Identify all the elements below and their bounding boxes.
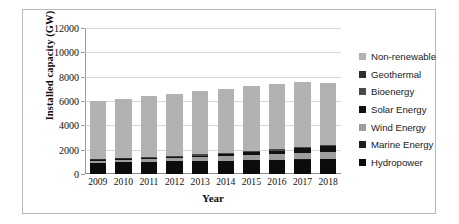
- stacked-bar[interactable]: [243, 86, 259, 174]
- bar-segment-hydropower: [141, 162, 157, 174]
- bar-segment-hydropower: [320, 159, 336, 174]
- plot-area: 020004000600080001000012000: [85, 28, 341, 174]
- legend-item[interactable]: Marine Energy: [359, 136, 459, 154]
- legend-label: Wind Energy: [371, 122, 426, 133]
- bar-segment-non-renewable: [269, 84, 285, 149]
- bar-slot: [187, 28, 213, 174]
- y-tick-label: 6000: [43, 96, 79, 107]
- stacked-bar[interactable]: [269, 84, 285, 174]
- bar-slot: [136, 28, 162, 174]
- legend-label: Geothermal: [371, 69, 421, 80]
- legend-item[interactable]: Geothermal: [359, 66, 459, 84]
- bar-segment-hydropower: [218, 161, 234, 174]
- x-tick-label: 2017: [290, 176, 316, 187]
- bar-series-group: [85, 28, 341, 174]
- bar-segment-non-renewable: [294, 82, 310, 147]
- bar-segment-non-renewable: [192, 91, 208, 154]
- x-tick-label: 2016: [264, 176, 290, 187]
- stacked-bar[interactable]: [192, 91, 208, 174]
- legend-swatch-icon: [359, 53, 366, 60]
- legend-item[interactable]: Bioenergy: [359, 83, 459, 101]
- x-axis-title: Year: [85, 192, 341, 204]
- bar-segment-non-renewable: [166, 94, 182, 156]
- chart-legend: Non-renewableGeothermalBioenergySolar En…: [359, 48, 459, 171]
- legend-swatch-icon: [359, 88, 366, 95]
- legend-swatch-icon: [359, 71, 366, 78]
- x-tick-label: 2018: [315, 176, 341, 187]
- y-tick-label: 4000: [43, 120, 79, 131]
- bar-segment-non-renewable: [243, 86, 259, 150]
- bar-segment-non-renewable: [90, 101, 106, 159]
- bar-segment-hydropower: [166, 161, 182, 174]
- legend-label: Non-renewable: [371, 51, 436, 62]
- bar-slot: [315, 28, 341, 174]
- stacked-bar[interactable]: [218, 89, 234, 174]
- bar-slot: [111, 28, 137, 174]
- legend-swatch-icon: [359, 106, 366, 113]
- y-axis-title: Installed capacity (GW): [44, 0, 55, 136]
- stacked-bar[interactable]: [320, 83, 336, 174]
- x-tick-label: 2010: [111, 176, 137, 187]
- bar-segment-hydropower: [90, 163, 106, 174]
- legend-label: Bioenergy: [371, 86, 414, 97]
- legend-item[interactable]: Non-renewable: [359, 48, 459, 66]
- bar-slot: [290, 28, 316, 174]
- x-tick-label: 2014: [213, 176, 239, 187]
- y-tick-label: 8000: [43, 71, 79, 82]
- bar-segment-hydropower: [294, 160, 310, 174]
- x-axis-tick-labels: 2009201020112012201320142015201620172018: [85, 176, 341, 187]
- x-tick-label: 2015: [239, 176, 265, 187]
- x-tick-label: 2012: [162, 176, 188, 187]
- bar-segment-wind-energy: [320, 152, 336, 159]
- y-tick-label: 10000: [43, 47, 79, 58]
- legend-swatch-icon: [359, 141, 366, 148]
- legend-item[interactable]: Hydropower: [359, 154, 459, 172]
- bar-segment-non-renewable: [320, 83, 336, 145]
- bar-segment-hydropower: [269, 160, 285, 174]
- legend-item[interactable]: Wind Energy: [359, 118, 459, 136]
- legend-swatch-icon: [359, 159, 366, 166]
- legend-label: Hydropower: [371, 157, 423, 168]
- y-tick-label: 0: [43, 169, 79, 180]
- bar-slot: [264, 28, 290, 174]
- bar-segment-non-renewable: [218, 89, 234, 153]
- legend-swatch-icon: [359, 124, 366, 131]
- bar-slot: [162, 28, 188, 174]
- stacked-bar[interactable]: [115, 99, 131, 174]
- x-tick-label: 2011: [136, 176, 162, 187]
- y-tick-label: 12000: [43, 23, 79, 34]
- chart-figure: Installed capacity (GW) 0200040006000800…: [0, 0, 459, 224]
- bar-segment-non-renewable: [141, 96, 157, 157]
- stacked-bar[interactable]: [294, 82, 310, 174]
- bar-slot: [239, 28, 265, 174]
- bar-segment-non-renewable: [115, 99, 131, 159]
- bar-slot: [213, 28, 239, 174]
- bar-segment-hydropower: [243, 160, 259, 174]
- legend-label: Marine Energy: [371, 139, 433, 150]
- stacked-bar[interactable]: [141, 96, 157, 174]
- legend-label: Solar Energy: [371, 104, 426, 115]
- y-tick-mark: [81, 174, 85, 175]
- stacked-bar[interactable]: [166, 94, 182, 174]
- bar-slot: [85, 28, 111, 174]
- y-tick-label: 2000: [43, 144, 79, 155]
- chart-frame: Installed capacity (GW) 0200040006000800…: [22, 9, 436, 214]
- bar-segment-hydropower: [192, 161, 208, 174]
- legend-item[interactable]: Solar Energy: [359, 101, 459, 119]
- x-tick-label: 2013: [187, 176, 213, 187]
- bar-segment-hydropower: [115, 162, 131, 174]
- x-tick-label: 2009: [85, 176, 111, 187]
- stacked-bar[interactable]: [90, 101, 106, 174]
